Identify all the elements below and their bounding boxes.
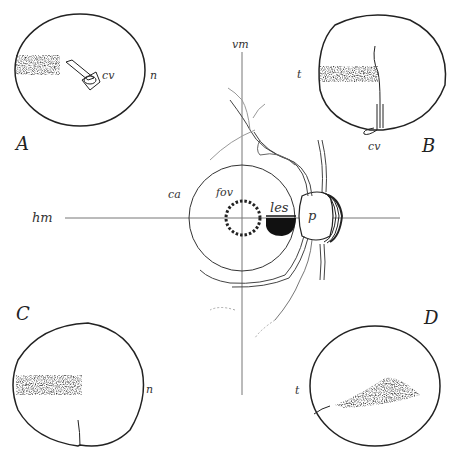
panel-b-pigment (320, 66, 378, 82)
panel-c-pigment (16, 375, 82, 395)
horizontal-meridian-label: hm (32, 210, 53, 225)
optic-disc (299, 192, 342, 243)
panel-a-letter: A (14, 133, 29, 154)
lesion-label: les (270, 200, 289, 215)
vertical-meridian-label: vm (232, 38, 249, 51)
panel-b: cv t B (297, 15, 446, 156)
panel-c-letter: C (16, 303, 30, 324)
papilla-label: p (308, 208, 317, 223)
panel-d-pigment (335, 378, 420, 408)
panel-a-side-label: n (150, 69, 157, 82)
panel-a-vessel-label: cv (102, 69, 115, 82)
central-area-label: ca (168, 188, 181, 201)
panel-b-vessel (364, 46, 383, 135)
panel-b-side-label: t (297, 68, 302, 81)
lesion-shape (266, 218, 296, 236)
panel-c: n C (13, 303, 153, 446)
panel-c-side-label: n (146, 383, 153, 396)
panel-a-pigment (16, 55, 60, 75)
panel-b-letter: B (421, 135, 435, 156)
panel-d-side-label: t (295, 384, 300, 397)
fundus-figure: vm hm ca fov les p (0, 0, 455, 454)
panel-a-vessel (66, 60, 100, 90)
panel-d-letter: D (423, 307, 439, 328)
panel-d: t D (295, 307, 440, 446)
panel-b-vessel-label: cv (368, 140, 381, 153)
panel-a: cv n A (14, 14, 157, 154)
fovea-label: fov (215, 186, 234, 199)
